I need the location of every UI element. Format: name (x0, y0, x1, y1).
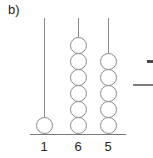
abacus-baseline (30, 134, 126, 135)
bead (70, 85, 87, 102)
bead (70, 117, 87, 134)
bead (100, 117, 117, 134)
bead (70, 101, 87, 118)
bead (100, 101, 117, 118)
bead (70, 37, 87, 54)
figure-label: b) (8, 3, 20, 17)
column-label-2: 6 (68, 140, 88, 154)
column-label-3: 5 (98, 140, 118, 154)
bead (100, 69, 117, 86)
edge-rule-mark (133, 84, 153, 86)
edge-dash-mark (147, 60, 153, 63)
bead (100, 85, 117, 102)
bead (70, 69, 87, 86)
column-label-1: 1 (34, 140, 54, 154)
abacus-figure: b) 165 (0, 0, 153, 158)
bead (100, 53, 117, 70)
bead (70, 53, 87, 70)
bead (36, 117, 53, 134)
